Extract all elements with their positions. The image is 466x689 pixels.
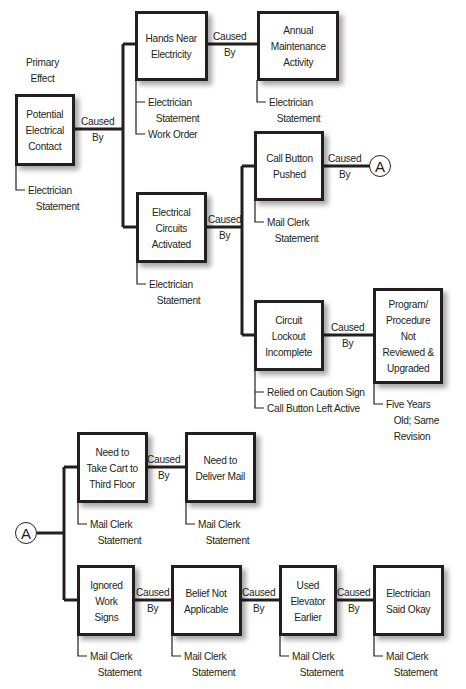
evidence-potential-contact: Electrician Statement bbox=[28, 182, 86, 214]
caused-by-label: Caused By bbox=[80, 113, 120, 145]
node-electrical-circuits-activated: Electrical Circuits Activated bbox=[136, 192, 207, 263]
node-deliver-mail: Need to Deliver Mail bbox=[185, 432, 256, 503]
evidence-hands-near: Electrician StatementWork Order bbox=[148, 94, 206, 142]
primary-effect-label: Primary Effect bbox=[16, 54, 74, 86]
evidence-used-elevator: Mail Clerk Statement bbox=[292, 648, 350, 680]
evidence-circuits-activated: Electrician Statement bbox=[149, 276, 207, 308]
node-program-procedure: Program/ Procedure Not Reviewed & Upgrad… bbox=[373, 288, 443, 384]
evidence-electrician-okay: Mail Clerk Statement bbox=[386, 648, 444, 680]
caused-by-label: Caused By bbox=[330, 319, 370, 351]
evidence-deliver-mail: Mail Clerk Statement bbox=[198, 516, 256, 548]
caused-by-label: Caused By bbox=[328, 150, 364, 182]
node-call-button-pushed: Call Button Pushed bbox=[254, 131, 324, 201]
caused-by-label: Caused By bbox=[147, 451, 183, 483]
evidence-belief: Mail Clerk Statement bbox=[184, 648, 242, 680]
evidence-call-button: Mail Clerk Statement bbox=[267, 214, 325, 246]
cause-effect-diagram: Primary Effect Potential Electrical Cont… bbox=[0, 0, 466, 689]
connector-a-top: A bbox=[369, 155, 391, 177]
node-used-elevator-earlier: Used Elevator Earlier bbox=[279, 565, 337, 636]
evidence-ignored-signs: Mail Clerk Statement bbox=[90, 648, 148, 680]
node-electrician-said-okay: Electrician Said Okay bbox=[373, 565, 444, 636]
caused-by-label: Caused By bbox=[242, 584, 278, 616]
caused-by-label: Caused By bbox=[208, 211, 244, 243]
evidence-lockout: Relied on Caution SignCall Button Left A… bbox=[267, 384, 378, 416]
node-annual-maintenance: Annual Maintenance Activity bbox=[257, 11, 339, 81]
node-belief-not-applicable: Belief Not Applicable bbox=[171, 565, 242, 636]
evidence-take-cart: Mail Clerk Statement bbox=[90, 516, 148, 548]
node-potential-electrical-contact: Potential Electrical Contact bbox=[15, 94, 75, 166]
caused-by-label: Caused By bbox=[337, 584, 373, 616]
evidence-program: Five Years Old; Same Revision bbox=[386, 396, 446, 444]
node-hands-near-electricity: Hands Near Electricity bbox=[135, 11, 208, 81]
node-circuit-lockout-incomplete: Circuit Lockout Incomplete bbox=[254, 300, 324, 371]
caused-by-label: Caused By bbox=[136, 584, 172, 616]
caused-by-label: Caused By bbox=[212, 28, 252, 60]
connector-a-bottom: A bbox=[15, 522, 37, 544]
node-take-cart-third-floor: Need to Take Cart to Third Floor bbox=[77, 432, 148, 503]
evidence-annual-maint: Electrician Statement bbox=[269, 94, 327, 126]
node-ignored-work-signs: Ignored Work Signs bbox=[77, 565, 135, 636]
